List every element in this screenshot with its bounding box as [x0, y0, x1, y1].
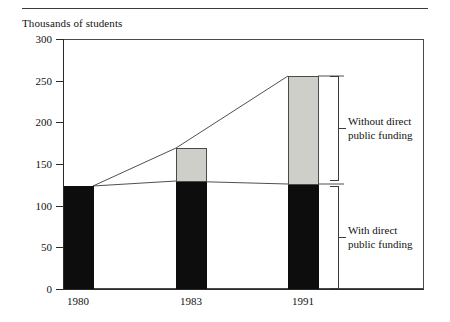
y-tick-label-50: 50 [6, 242, 52, 253]
bar-1980-with-funding [63, 186, 94, 289]
legend-label-with-funding-line1: With direct [348, 223, 412, 237]
x-tick-label-1980: 1980 [43, 295, 113, 307]
plot-area-frame [63, 39, 424, 289]
y-tick-label-150: 150 [6, 159, 52, 170]
legend-bracket-without-funding [330, 76, 339, 181]
x-axis-line [63, 289, 424, 290]
y-tick-label-250: 250 [6, 76, 52, 87]
bar-1991-with-funding [288, 184, 319, 289]
legend-label-with-funding: With direct public funding [348, 223, 412, 251]
legend-bracket-stub-with-funding [339, 237, 346, 238]
legend-bracket-with-funding [330, 186, 339, 289]
legend-label-without-funding: Without direct public funding [348, 114, 412, 142]
legend-bracket-stub-without-funding [339, 128, 346, 129]
bar-1983-with-funding [176, 181, 207, 289]
bar-1991-without-funding [288, 76, 319, 185]
x-tick-label-1991: 1991 [268, 295, 338, 307]
x-tick-label-1983: 1983 [156, 295, 226, 307]
y-tick-label-200: 200 [6, 117, 52, 128]
chart-figure: Thousands of students 300 250 200 150 10… [0, 0, 450, 322]
y-axis-title: Thousands of students [22, 16, 122, 30]
bar-1983-without-funding [176, 148, 207, 182]
top-divider-rule [22, 8, 428, 9]
legend-label-without-funding-line2: public funding [348, 128, 412, 142]
y-tick-label-100: 100 [6, 201, 52, 212]
legend-label-without-funding-line1: Without direct [348, 114, 412, 128]
legend-label-with-funding-line2: public funding [348, 237, 412, 251]
y-tick-label-0: 0 [6, 284, 52, 295]
y-axis-line [63, 39, 64, 290]
y-tick-label-300: 300 [6, 34, 52, 45]
